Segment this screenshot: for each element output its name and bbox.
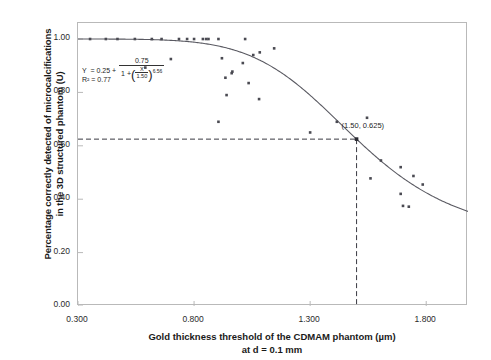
scatter-point xyxy=(242,62,245,65)
x-axis-title: Gold thickness threshold of the CDMAM ph… xyxy=(77,330,467,356)
equation-den-lead: 1 + xyxy=(121,70,131,77)
x-axis-tick-label: 0.300 xyxy=(66,314,87,324)
r-squared-label: R² = 0.77 xyxy=(82,76,111,83)
scatter-point xyxy=(105,38,108,41)
scatter-point xyxy=(408,205,411,208)
scatter-point xyxy=(89,38,92,41)
scatter-point xyxy=(247,82,250,85)
equation-lhs: Y xyxy=(82,67,87,74)
scatter-point xyxy=(366,116,369,119)
scatter-point xyxy=(225,94,228,97)
chart-figure: Percentage correctly detected of microca… xyxy=(0,0,491,360)
scatter-point xyxy=(178,38,181,41)
scatter-point xyxy=(217,38,220,41)
scatter-point xyxy=(421,183,424,186)
y-axis-tick-label: 0.60 xyxy=(40,139,70,149)
scatter-point xyxy=(230,72,233,75)
equation-intercept: 0.25 xyxy=(96,67,110,74)
scatter-point xyxy=(160,38,163,41)
scatter-point xyxy=(258,98,261,101)
equation-exponent: 6.56 xyxy=(153,68,163,74)
scatter-point xyxy=(205,38,208,41)
scatter-point xyxy=(202,38,205,41)
scatter-point xyxy=(369,177,372,180)
x-axis-tick-label: 1.800 xyxy=(415,314,436,324)
equation-inner-fraction: X1.50 xyxy=(135,66,148,79)
scatter-point xyxy=(380,159,383,162)
equation-fraction: 0.75 1 +(X1.50)6.56 xyxy=(119,56,164,79)
scatter-point xyxy=(134,38,137,41)
equation-eq-sign: = xyxy=(90,67,94,74)
scatter-point xyxy=(258,51,261,54)
scatter-point xyxy=(193,38,196,41)
scatter-point xyxy=(252,54,255,57)
scatter-point xyxy=(399,166,402,169)
scatter-point xyxy=(336,120,339,123)
scatter-point xyxy=(399,193,402,196)
x-axis-title-line1: Gold thickness threshold of the CDMAM ph… xyxy=(77,330,467,343)
scatter-point xyxy=(151,38,154,41)
x-axis-tick-label: 0.800 xyxy=(182,314,203,324)
scatter-point xyxy=(116,38,119,41)
scatter-point xyxy=(273,47,276,50)
equation-denominator: 1 +(X1.50)6.56 xyxy=(119,66,164,79)
scatter-point xyxy=(217,120,220,123)
scatter-point xyxy=(207,38,210,41)
scatter-point xyxy=(309,131,312,134)
y-axis-tick-label: 1.00 xyxy=(40,32,70,42)
y-axis-tick-label: 0.40 xyxy=(40,192,70,202)
scatter-point xyxy=(186,38,189,41)
equation-inner-denominator: 1.50 xyxy=(135,73,148,79)
annotated-point xyxy=(355,137,359,141)
x-axis-tick-label: 1.300 xyxy=(299,314,320,324)
x-axis-title-line2: at d = 0.1 mm xyxy=(77,343,467,356)
scatter-point xyxy=(224,76,227,79)
scatter-point xyxy=(244,38,247,41)
equation-plus: + xyxy=(112,67,116,74)
scatter-point xyxy=(412,175,415,178)
point-annotation: (1.50, 0.625) xyxy=(342,121,385,130)
equation-numerator: 0.75 xyxy=(119,56,164,66)
y-axis-tick-label: 0.80 xyxy=(40,85,70,95)
y-axis-tick-label: 0.20 xyxy=(40,246,70,256)
equation-inner-numerator: X xyxy=(135,66,148,73)
scatter-point xyxy=(402,205,405,208)
scatter-point xyxy=(170,58,173,61)
scatter-point xyxy=(221,57,224,60)
